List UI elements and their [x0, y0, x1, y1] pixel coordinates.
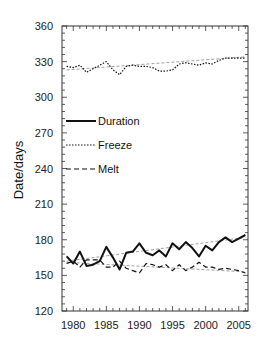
y-tick-label: 210: [35, 198, 53, 210]
legend-label-melt: Melt: [98, 163, 119, 175]
x-axis: 198019851990199520002005: [61, 26, 251, 331]
trend-line-duration: [67, 237, 246, 261]
x-tick-label: 2005: [226, 319, 250, 331]
trend-lines: [67, 57, 246, 272]
y-tick-label: 360: [35, 20, 53, 32]
y-tick-label: 300: [35, 91, 53, 103]
y-axis-title: Date/days: [11, 140, 26, 199]
y-tick-label: 120: [35, 305, 53, 317]
series-melt: [67, 260, 246, 273]
plot-border: [62, 26, 248, 311]
x-tick-label: 2000: [193, 319, 217, 331]
y-tick-label: 240: [35, 163, 53, 175]
x-tick-label: 1995: [160, 319, 184, 331]
series-duration: [67, 235, 246, 269]
x-tick-label: 1980: [61, 319, 85, 331]
legend-label-duration: Duration: [98, 115, 140, 127]
y-tick-label: 270: [35, 127, 53, 139]
data-series: [67, 58, 246, 273]
x-tick-label: 1990: [127, 319, 151, 331]
y-tick-label: 150: [35, 269, 53, 281]
y-tick-label: 180: [35, 234, 53, 246]
plot-frame: [62, 26, 248, 311]
line-chart: 120150180210240270300330360 198019851990…: [0, 0, 270, 352]
legend-label-freeze: Freeze: [98, 139, 132, 151]
trend-line-freeze: [67, 57, 246, 70]
legend: DurationFreezeMelt: [66, 115, 140, 175]
y-tick-label: 330: [35, 56, 53, 68]
x-tick-label: 1985: [94, 319, 118, 331]
series-freeze: [67, 58, 246, 75]
